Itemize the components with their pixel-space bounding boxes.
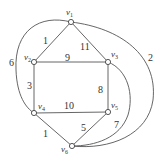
node-label-v6: v6 — [61, 144, 68, 155]
node-v4 — [31, 110, 36, 115]
edge-weight-v4-v5: 10 — [64, 100, 74, 111]
edge-weight-v2-v4: 3 — [27, 80, 32, 91]
weighted-graph-diagram: 1119381015627 v1v2v3v4v5v6 — [0, 0, 165, 166]
edge-v4-v6 — [34, 113, 72, 146]
edge-weight-v3-v6: 7 — [114, 119, 119, 130]
edge-v4-v5 — [34, 112, 108, 113]
node-labels: v1v2v3v4v5v6 — [24, 7, 118, 155]
node-label-v2: v2 — [24, 52, 31, 63]
edge-weight-v4-v6: 1 — [43, 128, 48, 139]
node-v1 — [68, 19, 73, 24]
edge-weight-v1-v3: 11 — [80, 41, 90, 52]
node-v3 — [105, 59, 110, 64]
node-label-v5: v5 — [111, 100, 118, 111]
node-label-v4: v4 — [38, 101, 45, 112]
edge-weight-v5-v6: 5 — [81, 122, 86, 133]
node-label-v3: v3 — [111, 49, 118, 60]
edge-weight-v3-v5: 8 — [98, 84, 103, 95]
edge-weight-v1-v6: 2 — [148, 52, 153, 63]
edge-weight-v2-v3: 9 — [65, 52, 70, 63]
node-v2 — [31, 59, 36, 64]
node-v6 — [69, 143, 74, 148]
edge-weight-v1-v2: 1 — [43, 35, 48, 46]
node-v5 — [105, 109, 110, 114]
edge-v3-v6 — [72, 62, 130, 146]
node-label-v1: v1 — [66, 7, 73, 18]
edge-weight-v1-v4: 6 — [9, 57, 14, 68]
edge-weight-labels: 1119381015627 — [9, 35, 153, 139]
edge-v1-v4 — [16, 20, 71, 113]
